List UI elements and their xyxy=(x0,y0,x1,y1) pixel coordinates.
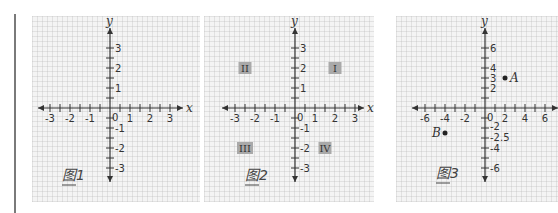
figure-1-x-tick-label: 2 xyxy=(147,113,153,124)
figure-3-x-arrow-left-icon xyxy=(412,105,418,111)
figure-2-y-arrow-icon xyxy=(292,28,298,34)
figure-2-y-axis-label: y xyxy=(290,14,298,28)
figure-2-caption: 图2 xyxy=(245,167,268,183)
figure-2-quadrant-I-label: I xyxy=(333,63,337,74)
figure-1-y-tick-label: 1 xyxy=(115,83,121,94)
figure-2-x-tick-label: 3 xyxy=(352,113,358,124)
figure-1-y-arrow-icon xyxy=(107,28,113,34)
figure-3-y-arrow-down-icon xyxy=(482,176,488,182)
figure-1-x-arrow-left-icon xyxy=(38,105,44,111)
figure-2-y-tick-label: -1 xyxy=(300,123,310,134)
figure-1-x-tick-label: 3 xyxy=(167,113,173,124)
figure-3-y-tick-label: -2.5 xyxy=(490,132,510,143)
figure-1-y-tick-label: 2 xyxy=(115,63,121,74)
coordinate-figures: -3-2-1123321-1-2-30xy图1-3-2-1123321-1-2-… xyxy=(0,0,558,213)
figure-1-y-arrow-down-icon xyxy=(107,176,113,182)
figure-3-x-tick-label: 6 xyxy=(542,113,548,124)
figure-2-origin-label: 0 xyxy=(297,112,303,123)
figure-3-x-tick-label: 4 xyxy=(522,113,528,124)
figure-1-y-axis-label: y xyxy=(105,14,113,28)
figure-1-caption: 图1 xyxy=(62,167,85,183)
figure-3-x-tick-label: -6 xyxy=(420,113,430,124)
figure-1-x-tick-label: -1 xyxy=(85,113,95,124)
figure-3-y-tick-label: -4 xyxy=(490,143,500,154)
figure-2-y-tick-label: -3 xyxy=(300,163,310,174)
figure-2-x-tick-label: -1 xyxy=(270,113,280,124)
figure-3-y-tick-label: 2 xyxy=(490,83,496,94)
figure-2-quadrant-III-label: III xyxy=(239,143,251,154)
figure-2-x-tick-label: 1 xyxy=(312,113,318,124)
figure-1-y-tick-label: -1 xyxy=(115,123,125,134)
figure-3-y-arrow-icon xyxy=(482,28,488,34)
figure-1-y-tick-label: -3 xyxy=(115,163,125,174)
figure-1-x-tick-label: -3 xyxy=(45,113,55,124)
figure-3-point-B xyxy=(443,131,448,136)
figure-3-point-B-label: B xyxy=(431,126,441,140)
figure-3-x-arrow-icon xyxy=(552,105,558,111)
figure-2-x-axis-label: x xyxy=(367,101,374,115)
figure-2-x-tick-label: 2 xyxy=(332,113,338,124)
figure-1-origin-label: 0 xyxy=(112,112,118,123)
figure-2-x-arrow-left-icon xyxy=(222,105,228,111)
figure-3-y-tick-label: 6 xyxy=(490,43,496,54)
figure-1-y-tick-label: -2 xyxy=(115,143,125,154)
figure-3-y-tick-label: -6 xyxy=(490,163,500,174)
figure-3-origin-label: 0 xyxy=(487,112,493,123)
figure-1-y-tick-label: 3 xyxy=(115,43,121,54)
figure-2-y-arrow-down-icon xyxy=(292,176,298,182)
figure-2-quadrant-IV-label: IV xyxy=(319,143,331,154)
figure-2-x-tick-label: -2 xyxy=(250,113,260,124)
figure-2-y-tick-label: 3 xyxy=(300,43,306,54)
figure-3-x-tick-label: 2 xyxy=(502,113,508,124)
figure-1-x-axis-label: x xyxy=(186,101,193,115)
figure-2-y-tick-label: -2 xyxy=(300,143,310,154)
figure-3-point-A xyxy=(503,76,508,81)
figure-1-x-tick-label: 1 xyxy=(127,113,133,124)
figure-2-y-tick-label: 1 xyxy=(300,83,306,94)
figure-2-x-tick-label: -3 xyxy=(230,113,240,124)
figure-1-x-arrow-icon xyxy=(177,105,183,111)
figure-2-quadrant-II-label: II xyxy=(241,63,249,74)
figure-3-caption: 图3 xyxy=(436,165,459,181)
figure-2-y-tick-label: 2 xyxy=(300,63,306,74)
figure-1-x-tick-label: -2 xyxy=(65,113,75,124)
figure-3-x-tick-label: -4 xyxy=(440,113,450,124)
figure-2-x-arrow-icon xyxy=(358,105,364,111)
figure-3-y-axis-label: y xyxy=(480,14,488,28)
figure-3-x-tick-label: -2 xyxy=(460,113,470,124)
figure-3-point-A-label: A xyxy=(509,71,519,85)
